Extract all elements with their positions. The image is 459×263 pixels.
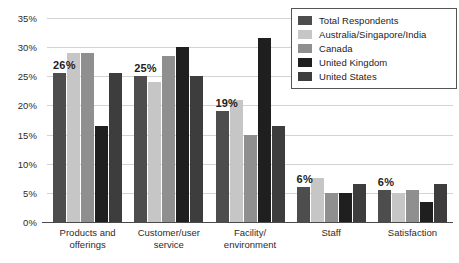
y-tick-label: 30% xyxy=(18,42,37,53)
bar xyxy=(67,53,80,222)
bar xyxy=(378,190,391,222)
bar xyxy=(109,73,122,222)
bar xyxy=(53,73,66,222)
bar-group: 19% xyxy=(209,18,290,222)
x-category-label-line: Facility/ xyxy=(209,227,290,239)
bar xyxy=(258,38,271,222)
bar xyxy=(230,100,243,222)
bar xyxy=(81,53,94,222)
bar xyxy=(420,202,433,222)
x-category-label: Staff xyxy=(291,225,372,263)
bar xyxy=(353,184,366,222)
bar xyxy=(272,126,285,222)
x-axis-line xyxy=(42,222,453,224)
y-tick-label: 0% xyxy=(23,217,37,228)
y-axis: 35%30%25%20%15%10%5%0% xyxy=(0,0,42,263)
bar-data-label: 6% xyxy=(378,176,394,188)
legend-label: United Kingdom xyxy=(319,57,387,68)
x-category-label-line: service xyxy=(128,239,209,251)
bar xyxy=(297,187,310,222)
bar-chart: 35%30%25%20%15%10%5%0% 26%25%19%6%6% Pro… xyxy=(0,0,459,263)
legend-item[interactable]: Total Respondents xyxy=(298,14,449,27)
x-category-label: Products andofferings xyxy=(47,225,128,263)
bar xyxy=(434,184,447,222)
x-category-label-line: environment xyxy=(209,239,290,251)
bar xyxy=(148,82,161,222)
bar-data-label: 19% xyxy=(215,97,238,109)
legend-item[interactable]: United Kingdom xyxy=(298,56,449,69)
y-tick-label: 35% xyxy=(18,13,37,24)
bar-group: 25% xyxy=(128,18,209,222)
legend-label: Canada xyxy=(319,43,353,54)
x-category-label: Satisfaction xyxy=(372,225,453,263)
x-axis-labels: Products andofferingsCustomer/userservic… xyxy=(47,225,453,263)
legend-label: Australia/Singapore/India xyxy=(319,29,426,40)
bar xyxy=(406,190,419,222)
legend-label: Total Respondents xyxy=(319,15,399,26)
legend-swatch-icon xyxy=(298,72,312,81)
y-tick-label: 20% xyxy=(18,100,37,111)
y-tick-label: 25% xyxy=(18,71,37,82)
bar xyxy=(176,47,189,222)
x-category-label: Facility/environment xyxy=(209,225,290,263)
legend-item[interactable]: United States xyxy=(298,70,449,83)
legend: Total RespondentsAustralia/Singapore/Ind… xyxy=(291,8,457,89)
x-category-label-line: Products and xyxy=(47,227,128,239)
x-category-label-line: Customer/user xyxy=(128,227,209,239)
legend-swatch-icon xyxy=(298,30,312,39)
bar-data-label: 6% xyxy=(297,173,313,185)
bar xyxy=(162,56,175,222)
legend-item[interactable]: Canada xyxy=(298,42,449,55)
bar-data-label: 25% xyxy=(134,62,157,74)
x-category-label: Customer/userservice xyxy=(128,225,209,263)
y-tick-label: 15% xyxy=(18,129,37,140)
bar xyxy=(392,193,405,222)
legend-label: United States xyxy=(319,71,377,82)
bar xyxy=(134,76,147,222)
x-category-label-line: offerings xyxy=(47,239,128,251)
bar xyxy=(244,135,257,222)
legend-swatch-icon xyxy=(298,44,312,53)
y-tick-label: 10% xyxy=(18,158,37,169)
y-tick-label: 5% xyxy=(23,187,37,198)
legend-item[interactable]: Australia/Singapore/India xyxy=(298,28,449,41)
legend-swatch-icon xyxy=(298,58,312,67)
legend-swatch-icon xyxy=(298,16,312,25)
x-category-label-line: Satisfaction xyxy=(372,227,453,239)
bar xyxy=(325,193,338,222)
bar-group: 26% xyxy=(47,18,128,222)
bar-data-label: 26% xyxy=(53,59,76,71)
bar xyxy=(216,111,229,222)
bar xyxy=(339,193,352,222)
bar xyxy=(95,126,108,222)
bar xyxy=(190,76,203,222)
x-category-label-line: Staff xyxy=(291,227,372,239)
